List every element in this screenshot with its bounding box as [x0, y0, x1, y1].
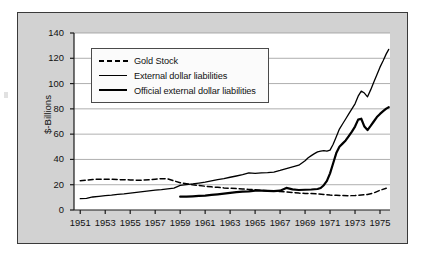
- chart-legend: Gold Stock External dollar liabilities O…: [91, 48, 269, 103]
- y-tick-label: 140: [38, 27, 64, 38]
- y-tick-label: 80: [38, 103, 64, 114]
- x-tick-label: 1975: [365, 217, 395, 228]
- legend-item-gold-stock: Gold Stock: [98, 53, 268, 68]
- chart-frame: $-Billions 020406080100120140 1951195319…: [17, 12, 408, 244]
- thin-solid-line-key-icon: [98, 70, 128, 82]
- page-edge-artifact: [4, 92, 8, 98]
- y-tick-label: 100: [38, 78, 64, 89]
- legend-label-official-external-dollar-liabilities: Official external dollar liabilities: [134, 86, 256, 96]
- legend-item-official-external-dollar-liabilities: Official external dollar liabilities: [98, 83, 268, 98]
- dashed-line-key-icon: [98, 55, 128, 67]
- legend-label-gold-stock: Gold Stock: [134, 56, 178, 66]
- y-tick-label: 120: [38, 52, 64, 63]
- y-tick-label: 20: [38, 179, 64, 190]
- y-tick-label: 0: [38, 204, 64, 215]
- y-tick-label: 40: [38, 153, 64, 164]
- chart-figure: $-Billions 020406080100120140 1951195319…: [0, 0, 425, 262]
- y-tick-label: 60: [38, 128, 64, 139]
- legend-item-external-dollar-liabilities: External dollar liabilities: [98, 68, 268, 83]
- legend-label-external-dollar-liabilities: External dollar liabilities: [134, 71, 227, 81]
- thick-solid-line-key-icon: [98, 85, 128, 97]
